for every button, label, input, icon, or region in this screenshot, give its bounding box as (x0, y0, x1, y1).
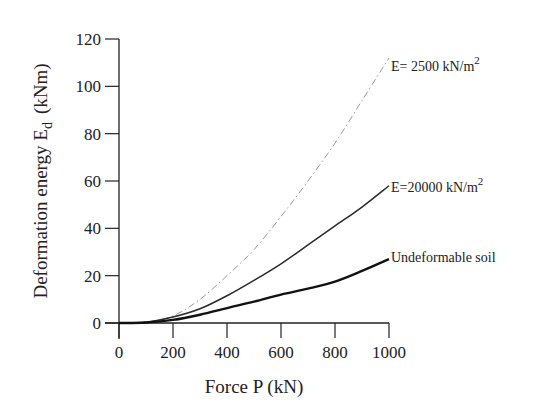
y-tick-label: 20 (84, 267, 101, 286)
series-line-2 (119, 259, 389, 323)
x-tick-label: 0 (115, 343, 124, 362)
y-tick-label: 0 (93, 314, 102, 333)
x-tick-label: 800 (322, 343, 348, 362)
y-tick-label: 100 (76, 77, 102, 96)
series-layer (119, 58, 389, 323)
y-tick-label: 60 (84, 172, 101, 191)
deformation-energy-chart: 020406080100120 02004006008001000 E= 250… (0, 0, 541, 420)
x-tick-label: 400 (214, 343, 240, 362)
curve-label-2: Undeformable soil (391, 250, 496, 265)
y-axis-title-subscript: d (40, 122, 55, 129)
y-tick-label: 40 (84, 219, 101, 238)
series-line-0 (119, 58, 389, 323)
y-axis: 020406080100120 (76, 30, 120, 339)
x-axis: 02004006008001000 (105, 323, 406, 362)
curve-label-0: E= 2500 kN/m2 (391, 54, 480, 74)
x-tick-label: 600 (268, 343, 294, 362)
x-tick-label: 1000 (372, 343, 406, 362)
y-axis-title: Deformation energy Ed(kNm) (30, 63, 55, 298)
curve-label-1: E=20000 kN/m2 (391, 175, 483, 195)
y-tick-label: 120 (76, 30, 102, 49)
y-axis-title-unit: (kNm) (30, 63, 52, 114)
x-axis-title: Force P (kN) (205, 376, 304, 398)
curve-annotations: E= 2500 kN/m2E=20000 kN/m2Undeformable s… (391, 54, 496, 265)
x-tick-label: 200 (160, 343, 186, 362)
y-axis-title-main: Deformation energy E (30, 129, 51, 299)
y-tick-label: 80 (84, 125, 101, 144)
